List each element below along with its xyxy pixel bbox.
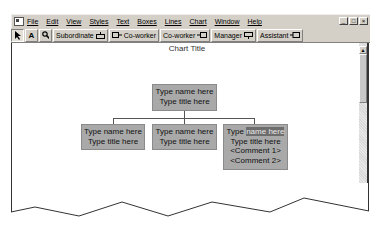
torn-edge-decoration [0,0,382,228]
